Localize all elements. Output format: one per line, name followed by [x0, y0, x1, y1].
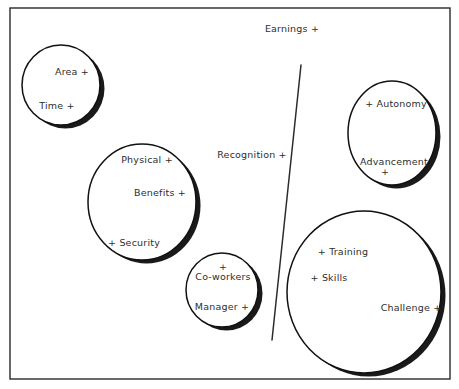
label-skills: + Skills — [311, 273, 348, 284]
bubble-training-skills-challenge — [287, 211, 446, 377]
label-advancement-plus: + — [381, 167, 389, 178]
label-challenge: Challenge + — [381, 303, 442, 314]
label-autonomy: + Autonomy — [365, 99, 427, 110]
bubble-training-skills-challenge-outline — [287, 211, 441, 373]
label-time: Time + — [39, 101, 74, 112]
label-benefits: Benefits + — [134, 188, 186, 199]
label-area: Area + — [55, 67, 89, 78]
bubble-area-time — [22, 45, 105, 129]
bubble-area-time-outline — [22, 45, 100, 125]
label-physical: Physical + — [121, 155, 173, 166]
recognition-label: Recognition + — [217, 150, 287, 161]
label-manager: Manager + — [195, 302, 249, 313]
earnings-label: Earnings + — [265, 24, 319, 35]
label-advancement: Advancement — [360, 157, 428, 168]
bubble-autonomy-advancement-outline — [348, 81, 436, 185]
diagram-svg — [0, 0, 459, 389]
diagram-canvas: Earnings +Recognition +Area +Time +Physi… — [0, 0, 459, 389]
bubbles-layer — [22, 45, 446, 377]
label-training: + Training — [318, 247, 368, 258]
label-security: + Security — [108, 238, 160, 249]
label-coworkers: Co-workers — [195, 272, 250, 283]
